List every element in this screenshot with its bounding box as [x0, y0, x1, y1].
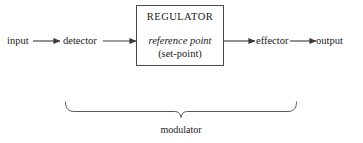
label-input: input: [7, 36, 29, 47]
regulator-flow-diagram: input detector REGULATOR reference point…: [0, 0, 363, 143]
label-regulator-title: REGULATOR: [147, 12, 213, 23]
modulator-brace: [66, 102, 297, 118]
label-detector: detector: [63, 36, 97, 47]
label-modulator: modulator: [160, 125, 201, 135]
label-effector: effector: [256, 36, 288, 47]
label-set-point: (set-point): [158, 49, 202, 60]
label-output: output: [316, 36, 343, 47]
label-reference-point: reference point: [148, 36, 211, 47]
